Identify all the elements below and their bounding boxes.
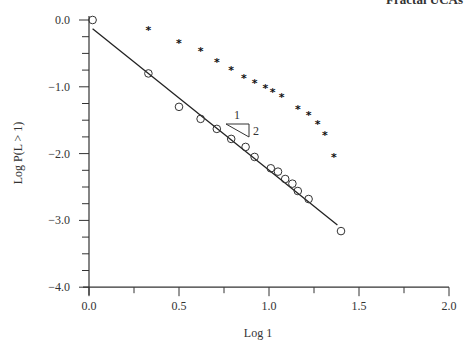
y-tick-label: −2.0 — [48, 147, 70, 161]
circle-marker — [281, 175, 289, 183]
star-marker: * — [228, 64, 234, 77]
circle-marker — [89, 16, 97, 24]
star-marker: * — [295, 103, 301, 116]
x-tick-label: 2.0 — [442, 299, 457, 313]
star-marker: * — [198, 45, 204, 58]
x-tick-label: 0.0 — [82, 299, 97, 313]
log-log-chart: 0.0−1.0−2.0−3.0−4.00.00.51.01.52.0 *****… — [0, 0, 467, 353]
circle-marker — [175, 103, 183, 111]
x-tick-label: 0.5 — [172, 299, 187, 313]
tick-marks — [79, 20, 449, 296]
slope-triangle: 12 — [226, 108, 259, 138]
y-tick-label: −4.0 — [48, 280, 70, 294]
y-tick-label: −1.0 — [48, 80, 70, 94]
circle-marker — [242, 143, 250, 151]
star-marker: * — [214, 56, 220, 69]
circle-marker — [289, 180, 297, 188]
y-tick-label: 0.0 — [55, 13, 70, 27]
star-marker: * — [263, 82, 269, 95]
star-marker: * — [315, 118, 321, 131]
y-tick-label: −3.0 — [48, 213, 70, 227]
slope-run-label: 1 — [234, 108, 240, 122]
star-marker: * — [331, 151, 337, 164]
circle-marker — [227, 135, 235, 143]
star-marker: * — [279, 91, 285, 104]
star-marker: * — [322, 129, 328, 142]
star-marker: * — [241, 72, 247, 85]
circle-marker — [294, 187, 302, 195]
circle-marker — [267, 164, 275, 172]
y-axis-title: Log P(L > 1) — [11, 122, 25, 185]
circle-series — [89, 16, 345, 235]
circle-marker — [274, 168, 282, 176]
star-marker: * — [252, 77, 258, 90]
x-tick-label: 1.0 — [262, 299, 277, 313]
star-marker: * — [306, 109, 312, 122]
star-marker: * — [270, 86, 276, 99]
circle-marker — [145, 70, 153, 78]
x-axis-title: Log 1 — [244, 326, 272, 340]
circle-marker — [197, 115, 205, 123]
tick-labels: 0.0−1.0−2.0−3.0−4.00.00.51.01.52.0 — [48, 13, 456, 313]
star-marker: * — [146, 24, 152, 37]
slope-rise-label: 2 — [253, 124, 259, 138]
star-marker: * — [176, 37, 182, 50]
x-tick-label: 1.5 — [352, 299, 367, 313]
circle-marker — [305, 195, 313, 203]
circle-marker — [251, 153, 259, 161]
axes — [83, 16, 449, 295]
circle-marker — [213, 125, 221, 133]
circle-marker — [337, 227, 345, 235]
